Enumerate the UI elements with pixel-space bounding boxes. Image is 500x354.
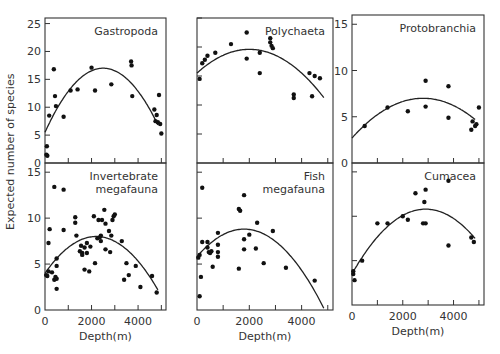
data-point (258, 51, 262, 55)
data-point (469, 235, 473, 239)
data-point (52, 185, 56, 189)
data-point (446, 243, 450, 247)
data-point (154, 290, 158, 294)
plot-frame (197, 18, 333, 163)
data-point (61, 187, 65, 191)
data-point (216, 231, 220, 235)
y-tick-label: 15 (27, 73, 41, 86)
data-point (406, 109, 410, 113)
data-point (47, 113, 51, 117)
data-point (210, 265, 214, 269)
data-point (268, 36, 272, 40)
data-point (261, 261, 265, 265)
data-point (85, 251, 89, 255)
data-point (197, 294, 201, 298)
data-point (109, 233, 113, 237)
data-point (209, 249, 213, 253)
data-point (113, 212, 117, 216)
panel-title: Gastropoda (94, 25, 158, 38)
data-point (307, 71, 311, 75)
data-point (469, 128, 473, 132)
y-tick-label: 10 (27, 212, 41, 225)
data-point (413, 191, 417, 195)
data-point (152, 107, 156, 111)
data-point (88, 244, 92, 248)
data-point (423, 78, 427, 82)
data-point (216, 250, 220, 254)
data-point (103, 247, 107, 251)
data-point (229, 42, 233, 46)
data-point (423, 187, 427, 191)
data-point (52, 67, 56, 71)
data-point (242, 237, 246, 241)
data-point (61, 115, 65, 119)
plot-frame (45, 18, 166, 163)
x-axis-label: Depth(m) (392, 325, 445, 338)
x-tick-label: 0 (194, 315, 201, 328)
y-tick-label: 5 (34, 258, 41, 271)
data-point (200, 61, 204, 65)
data-point (258, 71, 262, 75)
data-point (134, 264, 138, 268)
data-point (74, 233, 78, 237)
data-point (205, 245, 209, 249)
data-point (203, 58, 207, 62)
data-point (446, 84, 450, 88)
data-point (238, 209, 242, 213)
data-point (197, 253, 201, 257)
data-point (93, 261, 97, 265)
x-tick-label: 4000 (124, 315, 152, 328)
data-point (108, 250, 112, 254)
data-point (446, 115, 450, 119)
data-point (109, 82, 113, 86)
data-point (100, 218, 104, 222)
x-tick-label: 2000 (235, 315, 263, 328)
data-point (82, 245, 86, 249)
data-point (75, 87, 79, 91)
data-point (385, 105, 389, 109)
panel-gastropoda: 5101520250Gastropoda (27, 18, 166, 170)
data-point (85, 241, 89, 245)
y-tick-label: 5 (34, 129, 41, 142)
data-point (99, 239, 103, 243)
data-point (82, 267, 86, 271)
data-point (200, 186, 204, 190)
y-axis-label: Expected number of species (4, 73, 17, 230)
y-tick-label: 5 (341, 111, 348, 124)
panel-polychaeta: Polychaeta (197, 18, 333, 163)
data-point (205, 240, 209, 244)
data-point (54, 277, 58, 281)
data-point (406, 218, 410, 222)
data-point (242, 193, 246, 197)
data-point (73, 215, 77, 219)
x-tick-label: 0 (349, 310, 356, 323)
data-point (477, 105, 481, 109)
x-axis-label: Depth(m) (79, 330, 132, 343)
fit-curve (352, 209, 475, 274)
data-point (73, 221, 77, 225)
data-point (292, 96, 296, 100)
y-tick-label: 10 (27, 101, 41, 114)
x-tick-label: 0 (42, 315, 49, 328)
fit-curve (45, 237, 158, 290)
y-tick-label: 0 (34, 304, 41, 317)
data-point (312, 74, 316, 78)
panel-title: Fish (304, 170, 325, 183)
y-tick-label: 10 (334, 65, 348, 78)
data-point (87, 269, 91, 273)
data-point (120, 239, 124, 243)
data-point (122, 277, 126, 281)
data-point (150, 274, 154, 278)
y-tick-label: 25 (27, 18, 41, 31)
data-point (92, 214, 96, 218)
data-point (54, 264, 58, 268)
y-tick-label: 0 (341, 157, 348, 170)
figure: Expected number of species 5101520250Gas… (0, 0, 500, 354)
data-point (54, 287, 58, 291)
data-point (46, 241, 50, 245)
data-point (47, 227, 51, 231)
data-point (271, 46, 275, 50)
data-point (216, 255, 220, 259)
panel-title: megafauna (262, 183, 325, 196)
panel-protobranchia: 510150Protobranchia (334, 15, 484, 170)
